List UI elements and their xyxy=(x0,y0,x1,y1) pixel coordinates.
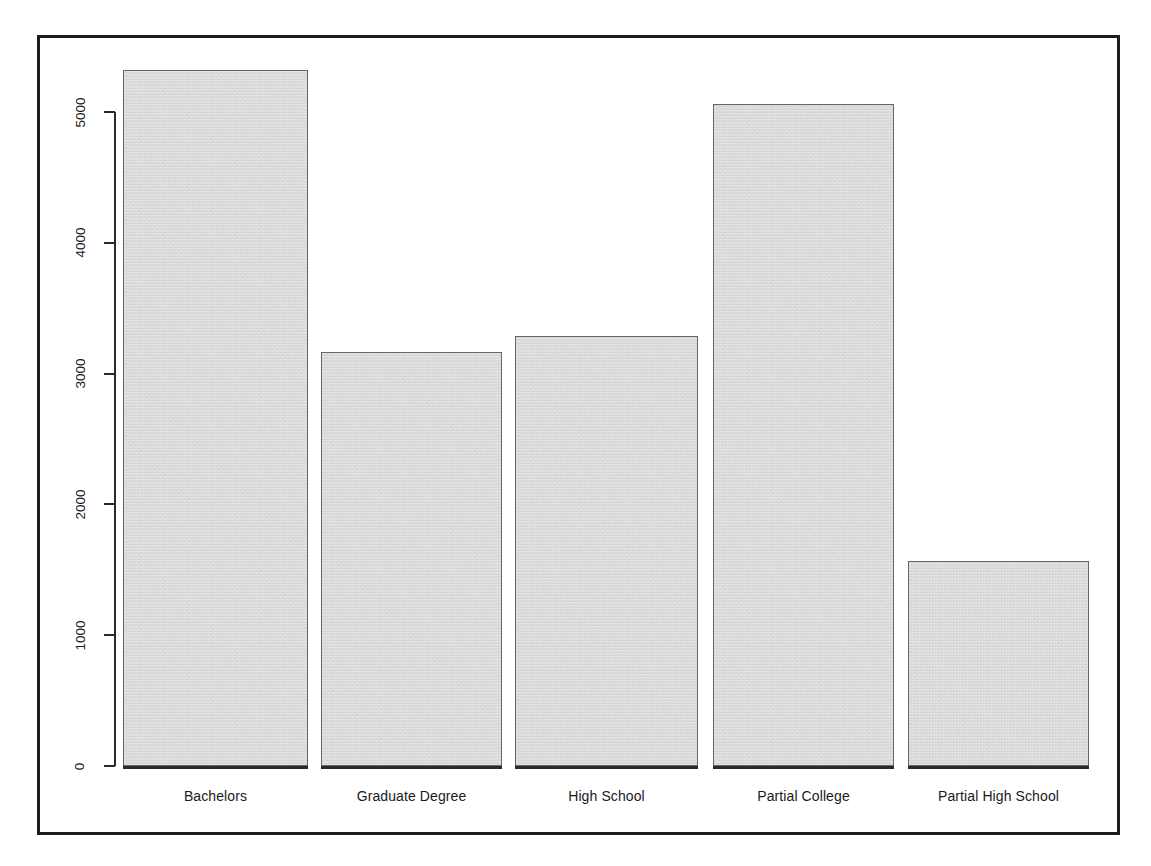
y-axis-tick-mark xyxy=(104,373,115,375)
y-axis-tick-mark xyxy=(104,242,115,244)
x-axis-category-label: Bachelors xyxy=(123,788,308,804)
y-axis-tick-mark xyxy=(104,111,115,113)
x-axis-category-label: Partial High School xyxy=(908,788,1089,804)
x-axis-category-label: Partial College xyxy=(713,788,894,804)
plot-outer-frame: 010002000300040005000 BachelorsGraduate … xyxy=(37,35,1120,835)
x-axis-baseline-segment xyxy=(908,766,1089,769)
y-axis-tick-label-text: 5000 xyxy=(72,97,87,127)
y-axis-tick-mark xyxy=(104,765,115,767)
y-axis-tick-mark xyxy=(104,634,115,636)
bar xyxy=(515,336,698,766)
x-axis-baseline-segment xyxy=(515,766,698,769)
bar xyxy=(321,352,502,766)
plot-area: 010002000300040005000 BachelorsGraduate … xyxy=(40,38,1117,832)
x-axis-baseline-segment xyxy=(321,766,502,769)
x-axis-baseline-segment xyxy=(713,766,894,769)
y-axis-tick-label-text: 1000 xyxy=(72,620,87,650)
y-axis-line xyxy=(114,112,116,766)
y-axis-tick-mark xyxy=(104,503,115,505)
x-axis-baseline-segment xyxy=(123,766,308,769)
y-axis-tick-label-text: 4000 xyxy=(72,228,87,258)
x-axis-category-label: Graduate Degree xyxy=(321,788,502,804)
bar xyxy=(123,70,308,766)
y-axis-tick-label-text: 0 xyxy=(72,762,87,770)
y-axis-tick-label-text: 3000 xyxy=(72,359,87,389)
y-axis-tick-label-text: 2000 xyxy=(72,489,87,519)
bar xyxy=(908,561,1089,766)
x-axis-category-label: High School xyxy=(515,788,698,804)
bar xyxy=(713,104,894,766)
